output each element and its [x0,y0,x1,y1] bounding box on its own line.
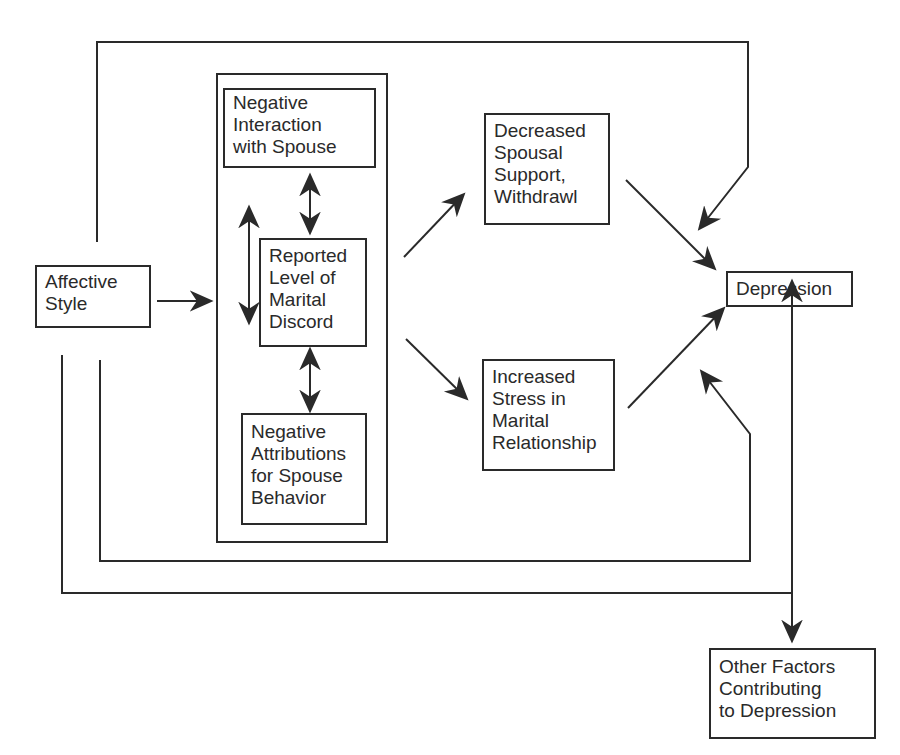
outer-bottom-loop-connector [62,355,792,640]
node-label: Marital [492,410,605,432]
top-loop-connector [97,42,748,242]
node-reported-discord: Reported Level of Marital Discord [259,238,367,347]
node-label: Increased [492,366,605,388]
node-label: Support, [494,164,600,186]
node-decreased-support: Decreased Spousal Support, Withdrawl [484,113,610,225]
node-label: Style [45,293,141,315]
connector-layer [0,0,900,755]
node-negative-interaction: Negative Interaction with Spouse [223,88,376,168]
support-to-depression-arrow [626,180,714,268]
node-label: Attributions [251,443,357,465]
node-label: Contributing [719,678,866,700]
node-label: Marital [269,289,357,311]
node-label: Interaction [233,114,366,136]
node-label: Decreased [494,120,600,142]
node-other-factors: Other Factors Contributing to Depression [709,648,876,739]
node-label: with Spouse [233,136,366,158]
diagram-canvas: Affective Style Negative Interaction wit… [0,0,900,755]
node-label: Relationship [492,432,605,454]
group-to-support-arrow [404,195,463,257]
node-label: Level of [269,267,357,289]
node-label: Depression [736,278,843,300]
node-depression: Depression [726,271,853,307]
node-label: Behavior [251,487,357,509]
group-to-stress-arrow [406,339,466,398]
node-label: Stress in [492,388,605,410]
node-negative-attributions: Negative Attributions for Spouse Behavio… [241,413,367,525]
node-label: for Spouse [251,465,357,487]
inner-bottom-loop-connector [100,360,750,561]
node-affective-style: Affective Style [35,265,151,328]
stress-to-depression-arrow [628,309,723,408]
node-label: Affective [45,271,141,293]
node-label: Discord [269,311,357,333]
node-label: Reported [269,245,357,267]
node-label: Other Factors [719,656,866,678]
node-label: to Depression [719,700,866,722]
node-label: Negative [233,92,366,114]
node-label: Negative [251,421,357,443]
node-increased-stress: Increased Stress in Marital Relationship [482,359,615,471]
node-label: Spousal [494,142,600,164]
node-label: Withdrawl [494,186,600,208]
